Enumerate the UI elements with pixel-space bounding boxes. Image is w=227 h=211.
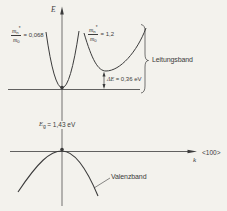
valley-separation-arrowhead-down xyxy=(103,84,106,89)
k-axis-arrowhead xyxy=(188,150,198,154)
conduction-band-brace xyxy=(141,25,149,94)
k-axis-direction-label: <100> xyxy=(202,150,220,157)
k-axis-label: k xyxy=(193,157,196,164)
energy-axis-arrowhead xyxy=(60,7,64,15)
satellite-mass-value: = 1,2 xyxy=(100,31,114,37)
valence-band-leader-line xyxy=(94,178,110,188)
valley-separation-label: ΔE = 0,36 eV xyxy=(107,76,142,82)
band-structure-diagram: E mn*m0 = 0,068 mn*m0 = 1,2 ΔE = 0,36 eV… xyxy=(0,0,227,211)
valence-band-curve xyxy=(18,151,98,196)
valence-band-label: Valenzband xyxy=(111,173,146,180)
band-gap-label: Eg = 1,43 eV xyxy=(38,121,76,129)
satellite-mass-fraction: mn*m0 xyxy=(88,26,98,43)
gamma-valley-mass-label: mn*m0 = 0,068 xyxy=(11,27,44,44)
valley-separation-arrowhead-up xyxy=(103,72,106,77)
gamma-mass-value: = 0,068 xyxy=(23,32,43,38)
valence-band-maximum-dot xyxy=(60,148,64,152)
conduction-band-minimum-dot xyxy=(60,86,64,90)
delta-e-symbol: ΔE xyxy=(107,76,114,82)
band-gap-symbol: Eg xyxy=(39,121,46,129)
satellite-valley-mass-label: mn*m0 = 1,2 xyxy=(88,26,114,43)
delta-e-value: = 0,36 eV xyxy=(116,76,142,82)
gamma-mass-fraction: mn*m0 xyxy=(11,27,21,44)
gamma-valley-curve xyxy=(46,31,79,88)
conduction-band-label: Leitungsband xyxy=(152,56,193,63)
band-gap-value: = 1,43 eV xyxy=(47,122,75,129)
energy-axis-label: E xyxy=(51,6,56,14)
